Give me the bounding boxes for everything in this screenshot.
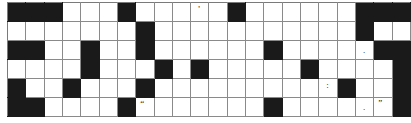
open-cell[interactable] <box>209 98 227 117</box>
open-cell[interactable] <box>8 22 26 41</box>
open-cell[interactable] <box>44 79 62 98</box>
crossword-grid[interactable]: '.:“.” <box>7 2 411 117</box>
open-cell[interactable] <box>355 60 373 79</box>
open-cell[interactable] <box>282 41 300 60</box>
open-cell[interactable] <box>209 79 227 98</box>
open-cell[interactable] <box>154 98 172 117</box>
open-cell[interactable] <box>172 41 190 60</box>
open-cell[interactable] <box>227 79 245 98</box>
open-cell[interactable] <box>99 3 117 22</box>
open-cell[interactable] <box>99 79 117 98</box>
open-cell[interactable] <box>62 3 80 22</box>
open-cell[interactable] <box>227 41 245 60</box>
open-cell[interactable] <box>62 41 80 60</box>
open-cell[interactable] <box>26 22 44 41</box>
open-cell[interactable] <box>337 60 355 79</box>
open-cell[interactable] <box>319 3 337 22</box>
open-cell[interactable] <box>282 79 300 98</box>
open-cell[interactable] <box>62 22 80 41</box>
open-cell[interactable] <box>301 22 319 41</box>
open-cell[interactable] <box>172 60 190 79</box>
open-cell[interactable] <box>117 41 135 60</box>
open-cell[interactable] <box>154 3 172 22</box>
open-cell[interactable]: : <box>319 79 337 98</box>
open-cell[interactable] <box>374 22 392 41</box>
open-cell[interactable] <box>246 79 264 98</box>
open-cell[interactable] <box>172 79 190 98</box>
open-cell[interactable] <box>136 3 154 22</box>
open-cell[interactable] <box>81 79 99 98</box>
open-cell[interactable] <box>392 22 410 41</box>
open-cell[interactable] <box>99 22 117 41</box>
open-cell[interactable] <box>246 22 264 41</box>
open-cell[interactable] <box>117 22 135 41</box>
open-cell[interactable] <box>227 60 245 79</box>
open-cell[interactable] <box>227 98 245 117</box>
open-cell[interactable] <box>337 3 355 22</box>
open-cell[interactable] <box>99 98 117 117</box>
open-cell[interactable] <box>282 60 300 79</box>
open-cell[interactable] <box>62 60 80 79</box>
open-cell[interactable] <box>209 22 227 41</box>
open-cell[interactable]: . <box>355 41 373 60</box>
open-cell[interactable] <box>191 41 209 60</box>
open-cell[interactable] <box>172 98 190 117</box>
open-cell[interactable] <box>282 3 300 22</box>
open-cell[interactable] <box>81 98 99 117</box>
open-cell[interactable] <box>117 60 135 79</box>
open-cell[interactable] <box>301 79 319 98</box>
open-cell[interactable] <box>191 98 209 117</box>
open-cell[interactable] <box>301 98 319 117</box>
open-cell[interactable] <box>154 22 172 41</box>
open-cell[interactable] <box>81 3 99 22</box>
open-cell[interactable] <box>191 79 209 98</box>
open-cell[interactable] <box>301 3 319 22</box>
open-cell[interactable] <box>99 41 117 60</box>
open-cell[interactable] <box>374 79 392 98</box>
open-cell[interactable] <box>282 98 300 117</box>
open-cell[interactable] <box>337 41 355 60</box>
open-cell[interactable] <box>374 60 392 79</box>
open-cell[interactable] <box>154 79 172 98</box>
open-cell[interactable] <box>62 98 80 117</box>
open-cell[interactable] <box>337 98 355 117</box>
open-cell[interactable]: ” <box>374 98 392 117</box>
open-cell[interactable] <box>246 3 264 22</box>
open-cell[interactable] <box>154 41 172 60</box>
open-cell[interactable] <box>319 98 337 117</box>
open-cell[interactable] <box>319 22 337 41</box>
open-cell[interactable] <box>136 60 154 79</box>
open-cell[interactable]: ' <box>191 3 209 22</box>
open-cell[interactable] <box>81 22 99 41</box>
open-cell[interactable] <box>209 3 227 22</box>
open-cell[interactable] <box>8 60 26 79</box>
open-cell[interactable] <box>44 41 62 60</box>
open-cell[interactable] <box>246 60 264 79</box>
open-cell[interactable]: “ <box>136 98 154 117</box>
open-cell[interactable] <box>44 22 62 41</box>
open-cell[interactable] <box>191 22 209 41</box>
open-cell[interactable] <box>26 79 44 98</box>
open-cell[interactable] <box>282 22 300 41</box>
open-cell[interactable]: . <box>355 98 373 117</box>
open-cell[interactable] <box>337 22 355 41</box>
open-cell[interactable] <box>44 98 62 117</box>
open-cell[interactable] <box>319 60 337 79</box>
open-cell[interactable] <box>209 41 227 60</box>
open-cell[interactable] <box>99 60 117 79</box>
open-cell[interactable] <box>355 79 373 98</box>
open-cell[interactable] <box>246 98 264 117</box>
open-cell[interactable] <box>264 3 282 22</box>
open-cell[interactable] <box>227 22 245 41</box>
open-cell[interactable] <box>172 3 190 22</box>
open-cell[interactable] <box>26 60 44 79</box>
open-cell[interactable] <box>264 60 282 79</box>
open-cell[interactable] <box>264 22 282 41</box>
open-cell[interactable] <box>301 41 319 60</box>
open-cell[interactable] <box>246 41 264 60</box>
open-cell[interactable] <box>117 79 135 98</box>
open-cell[interactable] <box>172 22 190 41</box>
open-cell[interactable] <box>319 41 337 60</box>
open-cell[interactable] <box>264 79 282 98</box>
open-cell[interactable] <box>209 60 227 79</box>
